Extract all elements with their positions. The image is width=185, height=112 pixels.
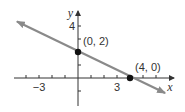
- x-tick-label: 3: [114, 81, 120, 93]
- data-point: [127, 75, 133, 81]
- line-graph: (0, 2)(4, 0) −334xy: [0, 0, 185, 112]
- point-label: (4, 0): [135, 61, 161, 73]
- labeled-points: (0, 2)(4, 0): [75, 35, 161, 81]
- x-axis-title: x: [166, 80, 173, 94]
- y-axis-title: y: [67, 6, 74, 20]
- x-tick-label: −3: [33, 81, 46, 93]
- axis-labels: −334xy: [33, 6, 174, 94]
- point-label: (0, 2): [83, 35, 109, 47]
- y-tick-label: 4: [69, 20, 75, 32]
- data-point: [75, 49, 81, 55]
